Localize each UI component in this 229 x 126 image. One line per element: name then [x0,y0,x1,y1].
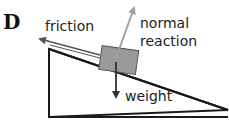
normal-label: normal [140,15,189,31]
weight-label: weight [125,88,172,104]
inclined-plane-diagram [0,0,229,126]
reaction-label: reaction [140,33,197,49]
friction-label: friction [45,18,94,34]
